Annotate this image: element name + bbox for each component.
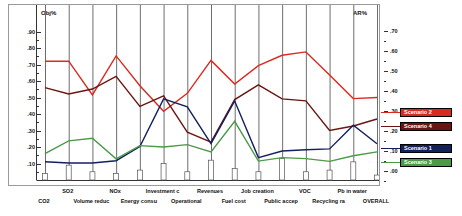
x-axis-label: Recycling ra bbox=[312, 198, 345, 204]
right-tick-label: .40 bbox=[390, 88, 404, 94]
left-tick-mark-minor bbox=[37, 155, 39, 156]
range-bar bbox=[375, 175, 380, 180]
x-axis-label: Energy consu bbox=[121, 198, 157, 204]
x-axis-label: Investment c bbox=[146, 188, 180, 194]
x-axis-label: NOx bbox=[109, 188, 120, 194]
right-tick-label: .60 bbox=[390, 48, 404, 54]
range-bar bbox=[256, 172, 261, 180]
x-axis-label: Volume reduc bbox=[73, 198, 109, 204]
right-tick-label: .50 bbox=[390, 68, 404, 74]
left-tick-mark bbox=[37, 98, 41, 99]
x-axis-label: CO2 bbox=[38, 198, 49, 204]
left-tick-mark-minor bbox=[37, 122, 39, 123]
range-bar bbox=[90, 172, 95, 180]
range-bar bbox=[185, 172, 190, 180]
right-tick-mark-minor bbox=[384, 181, 386, 182]
legend-connector bbox=[381, 112, 400, 113]
legend-connector bbox=[381, 126, 400, 127]
legend-item-scenario-2[interactable]: Scenario 2 bbox=[400, 108, 452, 117]
legend-item-scenario-4[interactable]: Scenario 4 bbox=[400, 122, 452, 131]
left-tick-mark bbox=[37, 65, 41, 66]
left-tick-mark bbox=[37, 48, 41, 49]
x-axis-label: Fuel cost bbox=[222, 198, 246, 204]
left-tick-mark-minor bbox=[37, 106, 39, 107]
left-tick-mark bbox=[37, 131, 41, 132]
x-axis-label: Job creation bbox=[241, 188, 274, 194]
x-axis-label: Pb in water bbox=[338, 188, 367, 194]
range-bar bbox=[209, 160, 214, 180]
x-axis-label: VOC bbox=[299, 188, 311, 194]
right-tick-mark-minor bbox=[384, 141, 386, 142]
range-bar bbox=[161, 164, 166, 181]
x-axis-label: OVERALL bbox=[363, 198, 389, 204]
right-tick-label: .70 bbox=[390, 28, 404, 34]
range-bar bbox=[66, 165, 71, 180]
left-tick-label: .30 bbox=[21, 128, 35, 134]
right-tick-mark bbox=[384, 51, 388, 52]
x-axis-label: Operational bbox=[171, 198, 202, 204]
right-tick-mark bbox=[384, 91, 388, 92]
legend-item-scenario-1[interactable]: Scenario 1 bbox=[400, 144, 452, 153]
legend-item-scenario-3[interactable]: Scenario 3 bbox=[400, 158, 452, 167]
left-tick-label: .20 bbox=[21, 144, 35, 150]
left-tick-mark-minor bbox=[37, 40, 39, 41]
right-tick-mark bbox=[384, 71, 388, 72]
x-axis-label: Public accep bbox=[264, 198, 298, 204]
left-tick-mark-minor bbox=[37, 73, 39, 74]
right-tick-mark bbox=[384, 151, 388, 152]
x-axis-label: Revenues bbox=[197, 188, 223, 194]
left-tick-label: .50 bbox=[21, 95, 35, 101]
legend-item-label: Scenario 4 bbox=[401, 123, 451, 130]
range-bar bbox=[351, 162, 356, 180]
right-tick-mark-minor bbox=[384, 61, 386, 62]
left-tick-label: .60 bbox=[21, 78, 35, 84]
left-tick-mark bbox=[37, 147, 41, 148]
range-bar bbox=[280, 159, 285, 180]
chart-screenshot: Obj% AR% .90.80.70.60.50.40.30.20.10 .70… bbox=[0, 0, 462, 216]
left-tick-label: .80 bbox=[21, 45, 35, 51]
chart-canvas bbox=[9, 5, 379, 185]
right-tick-mark-minor bbox=[384, 41, 386, 42]
legend-connector bbox=[381, 162, 400, 163]
range-bar bbox=[43, 173, 48, 180]
left-tick-mark-minor bbox=[37, 139, 39, 140]
legend-item-label: Scenario 1 bbox=[401, 145, 451, 152]
x-axis-label: SO2 bbox=[62, 188, 73, 194]
left-tick-mark bbox=[37, 32, 41, 33]
left-tick-mark bbox=[37, 164, 41, 165]
right-tick-label: .00 bbox=[390, 168, 404, 174]
left-tick-label: .40 bbox=[21, 111, 35, 117]
right-tick-mark-minor bbox=[384, 81, 386, 82]
left-tick-mark bbox=[37, 81, 41, 82]
right-tick-mark bbox=[384, 31, 388, 32]
range-bar bbox=[137, 170, 142, 180]
range-bar bbox=[303, 172, 308, 180]
right-tick-mark-minor bbox=[384, 121, 386, 122]
range-bar bbox=[232, 168, 237, 180]
chart-frame: Obj% AR% .90.80.70.60.50.40.30.20.10 .70… bbox=[8, 4, 380, 186]
left-tick-label: .10 bbox=[21, 161, 35, 167]
left-tick-label: .90 bbox=[21, 29, 35, 35]
legend-item-label: Scenario 2 bbox=[401, 109, 451, 116]
legend-connector bbox=[381, 148, 400, 149]
left-tick-mark-minor bbox=[37, 56, 39, 57]
left-tick-label: .70 bbox=[21, 62, 35, 68]
left-tick-mark-minor bbox=[37, 172, 39, 173]
range-bar bbox=[114, 173, 119, 180]
right-tick-mark bbox=[384, 171, 388, 172]
legend-item-label: Scenario 3 bbox=[401, 159, 451, 166]
range-bar bbox=[327, 170, 332, 180]
right-tick-mark bbox=[384, 131, 388, 132]
left-tick-mark bbox=[37, 114, 41, 115]
left-tick-mark-minor bbox=[37, 89, 39, 90]
right-tick-mark-minor bbox=[384, 101, 386, 102]
